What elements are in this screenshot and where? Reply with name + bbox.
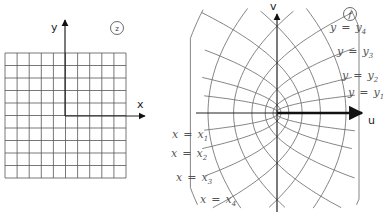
z-plane-label: z: [115, 25, 119, 33]
y-constant-curve: [234, 11, 294, 207]
curve-label-y3: y=y3: [336, 45, 374, 60]
conformal-map-diagram: y x z v u f y=y4 y=y3 y=y2 y=y1 x=x1 x=x…: [0, 0, 387, 214]
u-axis-label: u: [368, 114, 375, 127]
w-plane-badge: f: [344, 8, 357, 21]
curve-label-x1: x=x1: [172, 128, 208, 143]
w-plane-curves: [190, 8, 359, 208]
x-constant-curve: [261, 11, 321, 207]
x-constant-curve: [351, 10, 359, 205]
y-constant-curve: [208, 8, 248, 208]
v-axis-label: v: [270, 0, 277, 13]
curve-label-x3: x=x3: [176, 171, 213, 186]
z-plane: y x z: [5, 20, 145, 178]
y-axis-label: y: [51, 21, 58, 34]
curve-label-x2: x=x2: [171, 147, 208, 162]
w-plane: v u f y=y4 y=y3 y=y2 y=y1 x=x1 x=x2 x=x3…: [171, 0, 384, 212]
x-constant-curve: [306, 8, 346, 208]
curve-label-y4: y=y4: [329, 21, 366, 36]
curve-label-y1: y=y1: [347, 86, 384, 101]
z-plane-badge: z: [111, 22, 124, 35]
x-axis-label: x: [137, 98, 144, 111]
w-plane-label: f: [348, 10, 354, 19]
curve-label-x4: x=x4: [200, 193, 236, 208]
curve-label-y2: y=y2: [341, 69, 379, 84]
